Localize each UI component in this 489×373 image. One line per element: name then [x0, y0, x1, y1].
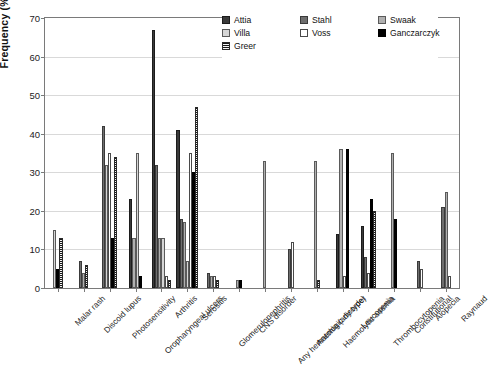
legend-item: Swaak [378, 16, 416, 25]
legend-item: Voss [300, 29, 331, 38]
x-tick-mark [84, 288, 85, 292]
bar [216, 280, 219, 288]
bar [314, 161, 317, 288]
legend-swatch-icon [222, 42, 230, 50]
y-tick-label: 0 [18, 283, 40, 294]
x-tick-mark [291, 288, 292, 292]
bar [168, 280, 171, 288]
bar [114, 157, 117, 288]
bar [339, 149, 342, 288]
bar [317, 280, 320, 288]
y-axis-title: Frequency (%) [0, 0, 10, 96]
x-tick-mark [239, 288, 240, 292]
bar [445, 192, 448, 288]
legend-item: Attia [222, 16, 251, 25]
y-tick-label: 10 [18, 244, 40, 255]
legend-item: Stahl [300, 16, 332, 25]
y-tick-label: 70 [18, 13, 40, 24]
legend-label: Villa [234, 29, 250, 38]
bar [291, 242, 294, 288]
bar [139, 276, 142, 288]
y-tick-label: 50 [18, 90, 40, 101]
x-tick-mark [58, 288, 59, 292]
legend-swatch-icon [222, 16, 230, 24]
x-tick-mark [446, 288, 447, 292]
x-tick-mark [394, 288, 395, 292]
x-tick-mark [187, 288, 188, 292]
legend-swatch-icon [378, 16, 386, 24]
x-tick-mark [368, 288, 369, 292]
legend-item: Villa [222, 29, 250, 38]
y-tick-label: 30 [18, 167, 40, 178]
bar [448, 276, 451, 288]
legend-label: Voss [312, 29, 331, 38]
y-tick-label: 40 [18, 128, 40, 139]
x-tick-mark [110, 288, 111, 292]
x-tick-label: Anemia (any type) [314, 294, 367, 347]
bar [263, 161, 266, 288]
x-tick-mark [343, 288, 344, 292]
y-tick-label: 20 [18, 205, 40, 216]
legend-item: Greer [222, 42, 256, 51]
x-tick-mark [265, 288, 266, 292]
legend-swatch-icon [300, 29, 308, 37]
bar [195, 107, 198, 288]
x-tick-mark [317, 288, 318, 292]
bar [394, 219, 397, 288]
legend: AttiaStahlSwaakVillaVossGanczarczykGreer [222, 16, 438, 60]
bar [59, 238, 62, 288]
legend-label: Greer [234, 42, 256, 51]
x-tick-label: Raynaud [460, 294, 489, 324]
legend-item: Ganczarczyk [378, 29, 440, 38]
legend-swatch-icon [378, 29, 386, 37]
x-tick-mark [136, 288, 137, 292]
x-tick-label: Malar rash [73, 294, 107, 328]
legend-label: Stahl [312, 16, 332, 25]
legend-label: Attia [234, 16, 251, 25]
x-tick-mark [213, 288, 214, 292]
bar [239, 280, 242, 288]
legend-label: Ganczarczyk [390, 29, 440, 38]
bar [346, 149, 349, 288]
x-tick-mark [420, 288, 421, 292]
legend-swatch-icon [300, 16, 308, 24]
x-tick-mark [161, 288, 162, 292]
bar [85, 265, 88, 288]
legend-label: Swaak [390, 16, 416, 25]
legend-swatch-icon [222, 29, 230, 37]
y-tick-label: 60 [18, 51, 40, 62]
bar [420, 269, 423, 288]
bar [136, 153, 139, 288]
bar [373, 211, 376, 288]
